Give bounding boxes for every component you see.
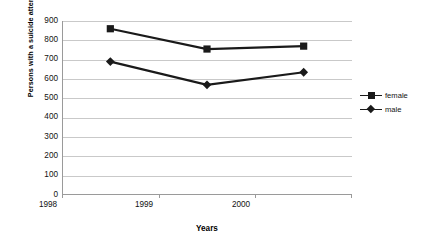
x-axis-tick-mark <box>351 195 352 198</box>
legend-item-label: female <box>382 91 408 100</box>
x-axis-tick-mark <box>255 195 256 198</box>
diamond-marker-icon <box>360 103 382 115</box>
line-chart: Persons with a suicide attempt/100,000 9… <box>0 0 432 247</box>
y-axis-tick-label: 700 <box>28 55 58 63</box>
y-axis-tick-label: 100 <box>28 171 58 179</box>
y-axis-tick-label: 900 <box>28 17 58 25</box>
data-point-diamond <box>299 68 308 77</box>
legend-item-label: male <box>382 105 401 114</box>
x-axis-tick-mark <box>159 195 160 198</box>
y-axis-tick-label: 300 <box>28 133 58 141</box>
y-axis-tick-label: 800 <box>28 36 58 44</box>
x-axis-tick-mark <box>62 195 63 198</box>
legend-item-male[interactable]: male <box>360 102 408 116</box>
series-layer <box>62 21 352 195</box>
data-point-square <box>203 45 210 52</box>
x-axis-title: Years <box>62 224 352 233</box>
plot-area <box>62 21 352 195</box>
x-axis-tick-label: 2000 <box>211 200 271 209</box>
data-point-square <box>107 25 114 32</box>
square-marker-icon <box>360 89 382 101</box>
y-axis-tick-label: 400 <box>28 113 58 121</box>
data-point-diamond <box>106 57 115 66</box>
x-axis-tick-label: 1999 <box>114 200 174 209</box>
x-axis-tick-label: 1998 <box>18 200 78 209</box>
y-axis-tick-label: 200 <box>28 152 58 160</box>
data-point-square <box>300 43 307 50</box>
y-axis-tick-label: 500 <box>28 94 58 102</box>
legend: female male <box>360 88 408 116</box>
y-axis-tick-label: 600 <box>28 75 58 83</box>
y-axis-tick-label: 0 <box>28 191 58 199</box>
legend-item-female[interactable]: female <box>360 88 408 102</box>
data-point-diamond <box>203 80 212 89</box>
